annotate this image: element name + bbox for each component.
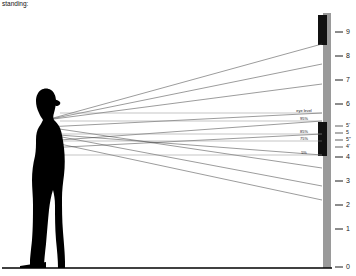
mirror-lower (318, 122, 327, 156)
mirror-upper (318, 15, 327, 45)
scale-label-8: 8 (346, 52, 350, 59)
scale-label-7: 7 (346, 76, 350, 83)
person-silhouette (20, 89, 65, 269)
ray-1 (46, 44, 322, 120)
ray-4 (46, 113, 322, 127)
scale-label-9: 9 (346, 28, 350, 35)
scale-label-2: 2 (346, 201, 350, 208)
scale-label-6: 6 (346, 100, 350, 107)
diagram-title: standing: (2, 0, 29, 8)
mirror-low-pct-label: 75% (300, 136, 308, 141)
ray-5 (46, 127, 322, 168)
mirror-mid-pct-label: 85% (300, 129, 308, 134)
ray-9 (46, 141, 322, 200)
scale-label-5-dprime: 5" (346, 136, 351, 142)
ray-bundle (46, 44, 322, 200)
mirror-top-pct-label: 95% (300, 116, 308, 121)
eye-level-label: eye level (296, 108, 311, 113)
ray-6 (46, 134, 322, 155)
scale-label-1: 1 (346, 225, 350, 232)
scale-label-5: 5 (346, 129, 349, 135)
scale-label-3: 3 (346, 177, 350, 184)
ray-7 (46, 134, 322, 186)
scale-label-4: 4 (346, 153, 350, 160)
ray-3 (46, 84, 322, 120)
eye-point (45, 119, 47, 121)
mirror-bottom-pct-label: 5% (301, 150, 307, 155)
scale-major-ticks (335, 32, 343, 267)
scale-label-0: 0 (346, 263, 350, 270)
ray-8 (46, 121, 322, 141)
mirror-placement-diagram: standing: eye level 95 (0, 0, 356, 276)
scale-label-4-prime: 4' (346, 143, 350, 149)
scale-minor-ticks (335, 126, 343, 147)
scale-label-5-prime: 5' (346, 122, 350, 128)
ray-2 (46, 64, 322, 120)
